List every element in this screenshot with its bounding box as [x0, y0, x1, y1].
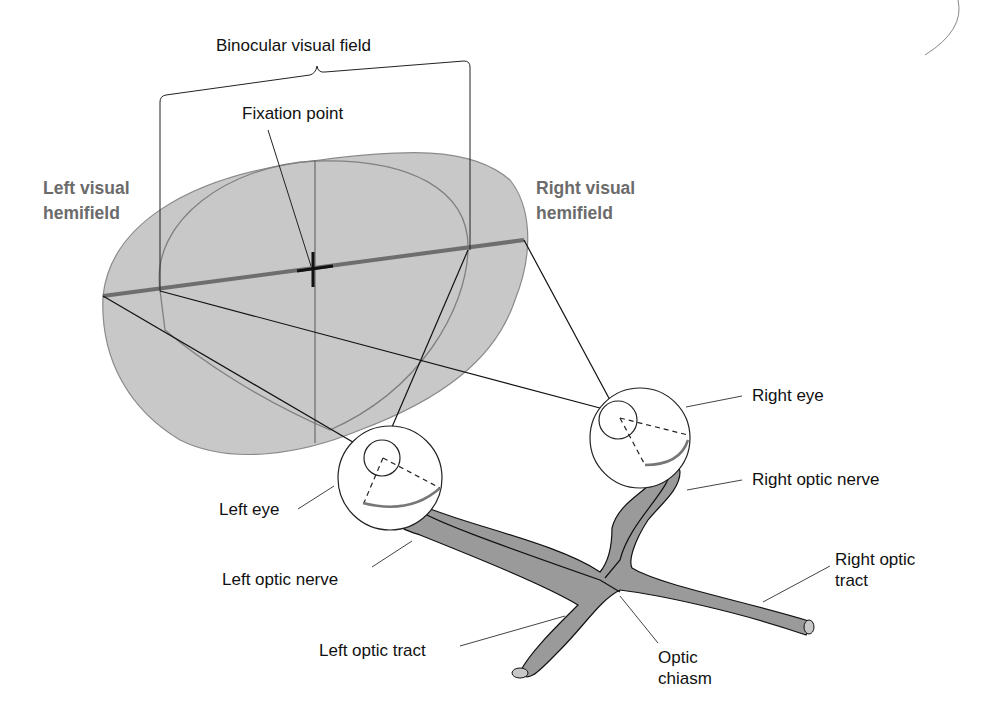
- label-fixation-point: Fixation point: [242, 103, 343, 124]
- label-optic-chiasm-line1: Optic: [658, 647, 712, 668]
- label-optic-chiasm: Optic chiasm: [658, 647, 712, 689]
- label-right-optic-tract-line1: Right optic: [835, 549, 915, 570]
- optic-pathway: [398, 462, 812, 677]
- label-left-optic-nerve: Left optic nerve: [222, 569, 338, 590]
- label-right-eye: Right eye: [752, 385, 824, 406]
- leader-right-optic-tract: [763, 566, 830, 602]
- right-tract-end: [804, 620, 814, 634]
- corner-arc: [925, 0, 959, 55]
- label-left-optic-tract: Left optic tract: [319, 640, 426, 661]
- label-left-hemifield-line2: hemifield: [43, 201, 130, 226]
- leader-right-eye: [686, 396, 742, 407]
- right-eye-drawing: [590, 388, 690, 488]
- label-right-hemifield-line2: hemifield: [536, 201, 635, 226]
- label-right-visual-hemifield: Right visual hemifield: [536, 176, 635, 226]
- label-right-hemifield-line1: Right visual: [536, 176, 635, 201]
- leader-right-optic-nerve: [687, 480, 742, 490]
- label-right-optic-tract-line2: tract: [835, 570, 915, 591]
- label-right-optic-tract: Right optic tract: [835, 549, 915, 591]
- leader-optic-chiasm: [620, 596, 658, 643]
- label-optic-chiasm-line2: chiasm: [658, 668, 712, 689]
- label-binocular-visual-field: Binocular visual field: [216, 35, 371, 56]
- label-right-optic-nerve: Right optic nerve: [752, 469, 880, 490]
- left-eye-drawing: [338, 426, 442, 530]
- label-left-visual-hemifield: Left visual hemifield: [43, 176, 130, 226]
- label-left-eye: Left eye: [219, 499, 280, 520]
- leader-left-optic-nerve: [372, 541, 412, 567]
- leader-left-eye: [298, 486, 334, 509]
- visual-pathway-diagram: [0, 0, 987, 728]
- projection-line: [524, 240, 618, 415]
- left-tract-end: [512, 668, 528, 678]
- label-left-hemifield-line1: Left visual: [43, 176, 130, 201]
